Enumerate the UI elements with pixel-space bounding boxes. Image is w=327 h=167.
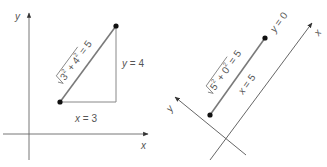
right-panel: x y y = 0 x = 5 52 + 02 = 5 <box>163 10 324 160</box>
right-point-start <box>207 112 212 117</box>
right-point-end <box>262 35 267 40</box>
svg-text:32 + 42 = 5: 32 + 42 = 5 <box>57 38 94 83</box>
left-hypotenuse-label: 32 + 42 = 5 <box>54 38 94 87</box>
left-vertical-leg-label: y = 4 <box>121 58 144 69</box>
left-horizontal-leg-label: x = 3 <box>74 113 97 124</box>
left-point-start <box>57 99 62 104</box>
right-y-label: y = 0 <box>267 10 290 35</box>
left-y-axis-label: y <box>14 11 21 22</box>
left-x-axis-label: x <box>140 140 147 151</box>
left-point-end <box>113 23 118 28</box>
right-y-axis-label: y <box>163 102 176 114</box>
diagram-canvas: y x y = 4 x = 3 32 + 42 = 5 x y y = 0 x … <box>0 0 327 167</box>
right-x-axis-label: x <box>311 26 324 38</box>
left-panel: y x y = 4 x = 3 32 + 42 = 5 <box>3 11 148 160</box>
